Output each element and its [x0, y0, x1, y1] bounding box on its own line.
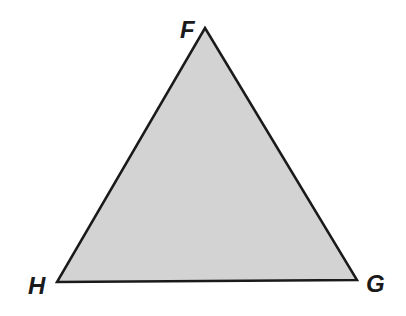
triangle-fgh: [57, 28, 357, 282]
diagram-canvas: F G H: [0, 0, 406, 316]
vertex-label-h: H: [28, 272, 46, 299]
vertex-label-g: G: [366, 270, 385, 297]
triangle-figure: F G H: [0, 0, 406, 316]
vertex-label-f: F: [180, 16, 196, 43]
